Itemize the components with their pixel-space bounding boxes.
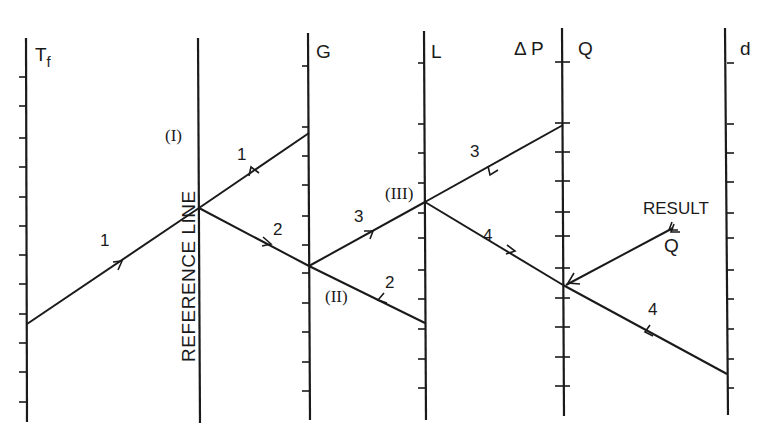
step-1-lines: 1 1 [27, 133, 309, 324]
axis-label-l: L [431, 41, 442, 62]
axis-dp-q: Δ P Q [514, 28, 593, 416]
arrow-icon [488, 166, 498, 175]
axis-reference-line: REFERENCE LINE [178, 38, 200, 423]
result-pointer: RESULT Q [566, 199, 709, 285]
step-label-1b: 1 [237, 145, 246, 164]
step-2-lines: 2 2 [199, 208, 425, 323]
axis-label-delta-p: Δ P [514, 38, 544, 59]
step-label-1a: 1 [100, 231, 109, 250]
step-label-2a: 2 [273, 220, 282, 239]
axis-g: G [302, 33, 331, 420]
step-3-lines: 3 3 [309, 125, 563, 266]
axis-label-d: d [740, 38, 751, 59]
axis-tf: Tf [19, 38, 52, 422]
pivot-label-ii: (II) [325, 287, 348, 306]
pivot-label-iii: (III) [385, 184, 413, 203]
pivot-label-i: (I) [165, 126, 182, 145]
axis-label-q: Q [578, 38, 593, 59]
axis-label-tf: Tf [35, 44, 52, 70]
axis-label-g: G [316, 41, 331, 62]
step-4-lines: 4 4 [425, 202, 727, 374]
step-label-3a: 3 [354, 207, 363, 226]
tf-ticks [19, 77, 26, 402]
result-label: RESULT [643, 199, 709, 218]
step-label-3b: 3 [470, 142, 479, 161]
arrow-icon [645, 325, 653, 336]
step-label-2b: 2 [385, 273, 394, 292]
axis-l: L [418, 31, 442, 420]
result-value-q: Q [664, 235, 679, 256]
nomogram-diagram: Tf REFERENCE LINE G [0, 0, 771, 445]
axis-d: d [725, 28, 751, 415]
step-label-4a: 4 [483, 226, 492, 245]
step-label-4b: 4 [648, 300, 657, 319]
